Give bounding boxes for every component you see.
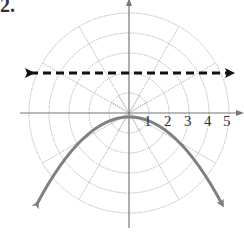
tick-label-4: 4	[204, 113, 212, 130]
tick-label-1: 1	[144, 113, 152, 130]
polar-graph: 2. 1 2 3 4 5	[0, 0, 244, 233]
tick-label-2: 2	[164, 113, 172, 130]
tick-label-3: 3	[184, 113, 192, 130]
tick-label-5: 5	[223, 113, 231, 130]
problem-number: 2.	[0, 0, 15, 17]
